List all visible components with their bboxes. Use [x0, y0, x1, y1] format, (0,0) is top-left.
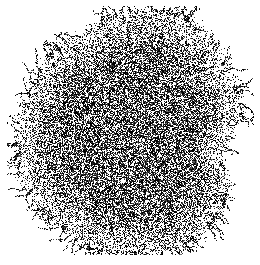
figure-root: A dense, roughly circular fractal aggreg… — [0, 0, 260, 265]
fractal-aggregate-cluster — [0, 0, 260, 265]
